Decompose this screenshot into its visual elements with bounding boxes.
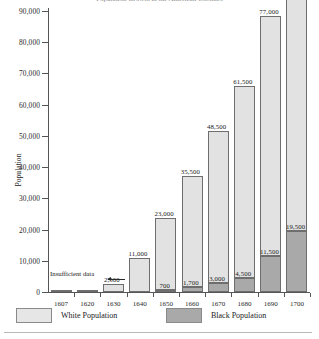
bar-segment-white-population[interactable] (103, 284, 124, 292)
insufficient-data-label: Insufficient data (50, 270, 94, 278)
x-axis-tick (310, 293, 311, 297)
y-axis-label: 90,000 (19, 7, 40, 16)
y-axis-tick (42, 292, 48, 293)
y-axis-tick (42, 198, 48, 199)
y-axis-line (48, 8, 49, 293)
y-axis-tick (42, 73, 48, 74)
bar-value-label-white: 48,500 (207, 123, 226, 130)
bar-value-label-white: 35,500 (181, 168, 200, 175)
bar-segment-white-population[interactable] (129, 258, 150, 292)
x-axis-label: 1670 (211, 300, 225, 308)
x-axis-tick (258, 293, 259, 297)
bar-value-label-black: 11,500 (260, 248, 279, 255)
legend-item-black: Black Population (166, 308, 266, 323)
bar-segment-white-population[interactable] (208, 131, 229, 282)
bar-value-label-black: 700 (159, 282, 170, 289)
legend-label-white-population: White Population (61, 311, 117, 320)
y-axis-tick (42, 261, 48, 262)
bar-value-label-white: 77,000 (259, 8, 278, 15)
y-axis-label: 30,000 (19, 194, 40, 203)
bar-group[interactable] (77, 290, 98, 293)
x-axis-tick (100, 293, 101, 297)
insufficient-data-arrow (108, 279, 125, 280)
plot-area: 90,00080,00070,00060,00050,00040,00030,0… (48, 8, 310, 293)
x-axis-tick (284, 293, 285, 297)
y-axis-label: 80,000 (19, 38, 40, 47)
bar-value-label-white: 61,500 (233, 78, 252, 85)
x-axis-label: 1660 (185, 300, 199, 308)
bar-segment-black-population[interactable] (182, 287, 203, 292)
bar-segment-black-population[interactable] (208, 283, 229, 292)
y-axis-label: 20,000 (19, 225, 40, 234)
bar-segment-white-population[interactable] (155, 218, 176, 290)
y-axis-tick (42, 136, 48, 137)
x-axis-label: 1607 (54, 300, 68, 308)
bar-segment-white-population[interactable] (51, 290, 72, 293)
x-axis-label: 1680 (238, 300, 252, 308)
x-axis-tick (179, 293, 180, 297)
bar-value-label-black: 4,500 (235, 270, 251, 277)
bar-segment-white-population[interactable] (182, 176, 203, 287)
x-axis-tick (74, 293, 75, 297)
y-axis-tick (42, 167, 48, 168)
legend-swatch-white-population (16, 308, 52, 323)
bar-group[interactable] (129, 258, 150, 292)
y-axis-tick (42, 230, 48, 231)
y-axis-label: 50,000 (19, 131, 40, 140)
bar-group[interactable] (286, 0, 307, 292)
y-axis-label: 40,000 (19, 163, 40, 172)
chart-legend: White Population Black Population (16, 308, 306, 326)
bar-segment-black-population[interactable] (234, 278, 255, 292)
y-axis-label: 10,000 (19, 256, 40, 265)
bar-group[interactable] (182, 176, 203, 292)
bar-group[interactable] (51, 290, 72, 293)
x-axis-tick (153, 293, 154, 297)
legend-label-black-population: Black Population (211, 311, 266, 320)
x-axis-label: 1620 (80, 300, 94, 308)
bar-value-label-black: 1,700 (183, 279, 199, 286)
y-axis-tick (42, 105, 48, 106)
bar-group[interactable] (103, 284, 124, 292)
bar-value-label-white: 23,000 (155, 210, 174, 217)
bar-segment-black-population[interactable] (155, 290, 176, 292)
x-axis-tick (127, 293, 128, 297)
y-axis-tick (42, 42, 48, 43)
bar-value-label-white: 11,000 (128, 250, 147, 257)
legend-swatch-black-population (166, 308, 202, 323)
x-axis-label: 1690 (264, 300, 278, 308)
bar-value-label-black: 3,000 (209, 275, 225, 282)
x-axis-tick (205, 293, 206, 297)
x-axis-tick (231, 293, 232, 297)
bar-chart: Population Growth in the American Coloni… (0, 0, 319, 339)
y-axis-tick (42, 11, 48, 12)
bar-segment-white-population[interactable] (286, 0, 307, 231)
bar-segment-white-population[interactable] (260, 16, 281, 256)
x-axis-label: 1650 (159, 300, 173, 308)
chart-title: Population Growth in the American Coloni… (0, 0, 319, 3)
bar-group[interactable] (234, 86, 255, 292)
x-axis-label: 1630 (107, 300, 121, 308)
legend-item-white: White Population (16, 308, 117, 323)
x-axis-label: 1640 (133, 300, 147, 308)
y-axis-label: 70,000 (19, 69, 40, 78)
y-axis-label: 0 (36, 288, 40, 297)
bar-segment-black-population[interactable] (260, 256, 281, 292)
x-axis-label: 1700 (290, 300, 304, 308)
bar-segment-white-population[interactable] (234, 86, 255, 278)
bar-group[interactable] (208, 131, 229, 292)
footer-divider (4, 332, 312, 333)
bar-segment-black-population[interactable] (286, 231, 307, 292)
y-axis-label: 60,000 (19, 100, 40, 109)
bar-value-label-black: 19,500 (286, 223, 305, 230)
bar-segment-white-population[interactable] (77, 290, 98, 293)
